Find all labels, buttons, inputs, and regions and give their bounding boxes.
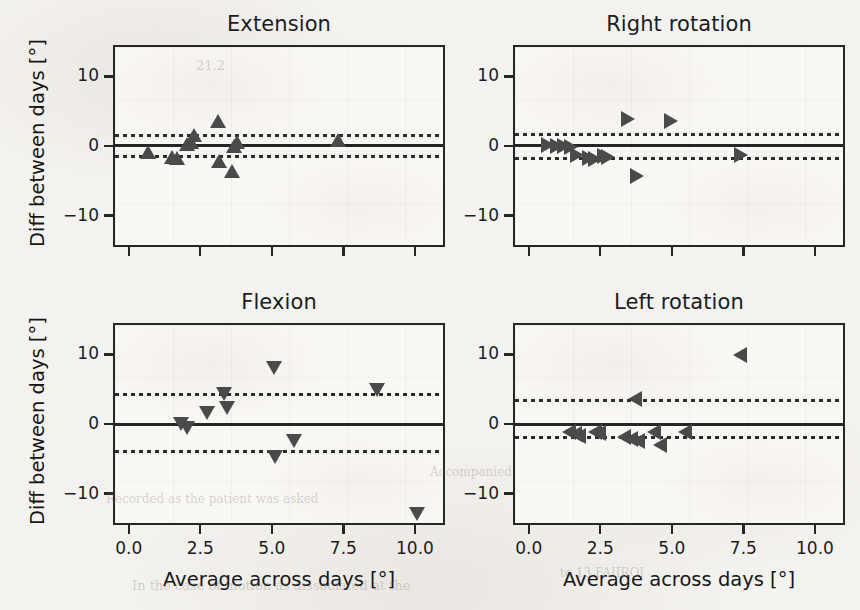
x-axis-title: Average across days [°] bbox=[513, 568, 845, 591]
mean-difference-line bbox=[115, 423, 443, 426]
y-axis-tick bbox=[504, 214, 513, 216]
y-axis-tick-label: 10 bbox=[437, 343, 499, 363]
loa-upper-line bbox=[115, 134, 443, 137]
data-point bbox=[210, 114, 226, 128]
data-point bbox=[572, 428, 586, 444]
data-point bbox=[266, 361, 282, 375]
subplot-title: Right rotation bbox=[513, 12, 845, 36]
y-axis-tick bbox=[104, 75, 113, 77]
x-axis-tick bbox=[742, 525, 744, 534]
data-point bbox=[678, 424, 692, 440]
loa-lower-line bbox=[515, 157, 843, 160]
x-axis-tick-label: 5.0 bbox=[232, 538, 312, 558]
y-axis-tick bbox=[504, 145, 513, 147]
x-axis-tick bbox=[128, 247, 130, 256]
data-point bbox=[631, 433, 645, 449]
x-axis-tick-label: 2.5 bbox=[160, 538, 240, 558]
loa-upper-line bbox=[515, 133, 843, 136]
x-axis-tick-label: 0.0 bbox=[89, 538, 169, 558]
x-axis-tick bbox=[814, 247, 816, 256]
loa-upper-line bbox=[515, 399, 843, 402]
y-axis-tick bbox=[504, 75, 513, 77]
x-axis-tick-label: 0.0 bbox=[489, 538, 569, 558]
x-axis-tick bbox=[414, 525, 416, 534]
x-axis-tick-label: 10.0 bbox=[375, 538, 455, 558]
x-axis-tick bbox=[199, 525, 201, 534]
y-axis-tick-label: 0 bbox=[437, 413, 499, 433]
data-point bbox=[179, 421, 195, 435]
data-point bbox=[630, 168, 644, 184]
x-axis-tick bbox=[199, 247, 201, 256]
data-point bbox=[664, 113, 678, 129]
x-axis-tick-label: 5.0 bbox=[632, 538, 712, 558]
data-point bbox=[409, 507, 425, 521]
x-axis-tick-label: 2.5 bbox=[560, 538, 640, 558]
x-axis-tick bbox=[599, 247, 601, 256]
x-axis-tick bbox=[742, 247, 744, 256]
subplot-title: Left rotation bbox=[513, 290, 845, 314]
y-axis-tick bbox=[504, 492, 513, 494]
x-axis-tick-label: 7.5 bbox=[703, 538, 783, 558]
x-axis-tick bbox=[528, 525, 530, 534]
loa-upper-line bbox=[115, 393, 443, 396]
data-point bbox=[186, 128, 202, 142]
data-point bbox=[628, 391, 642, 407]
figure-page: Extension100−10Diff between days [°]Righ… bbox=[0, 0, 860, 610]
x-axis-title: Average across days [°] bbox=[113, 568, 445, 591]
x-axis-tick-label: 10.0 bbox=[775, 538, 855, 558]
data-point bbox=[199, 406, 215, 420]
y-axis-title: Diff between days [°] bbox=[26, 323, 49, 525]
x-axis-tick bbox=[414, 247, 416, 256]
data-point bbox=[734, 147, 748, 163]
data-point bbox=[369, 383, 385, 397]
y-axis-tick bbox=[104, 492, 113, 494]
data-point bbox=[216, 387, 232, 401]
data-point bbox=[219, 401, 235, 415]
x-axis-tick bbox=[528, 247, 530, 256]
subplot-title: Extension bbox=[113, 12, 445, 36]
data-point bbox=[601, 149, 615, 165]
x-axis-tick bbox=[671, 525, 673, 534]
data-point bbox=[224, 164, 240, 178]
y-axis-tick-label: −10 bbox=[437, 205, 499, 225]
data-point bbox=[267, 450, 283, 464]
y-axis-tick bbox=[104, 145, 113, 147]
data-point bbox=[733, 347, 747, 363]
y-axis-tick bbox=[104, 214, 113, 216]
y-axis-tick bbox=[504, 353, 513, 355]
x-axis-tick bbox=[599, 525, 601, 534]
subplot-title: Flexion bbox=[113, 290, 445, 314]
y-axis-tick-label: 0 bbox=[437, 135, 499, 155]
data-point bbox=[621, 111, 635, 127]
x-axis-tick bbox=[271, 247, 273, 256]
data-point bbox=[140, 145, 156, 159]
y-axis-tick bbox=[104, 423, 113, 425]
y-axis-tick bbox=[104, 353, 113, 355]
x-axis-tick bbox=[271, 525, 273, 534]
data-point bbox=[169, 151, 185, 165]
x-axis-tick bbox=[128, 525, 130, 534]
y-axis-tick-label: 10 bbox=[437, 65, 499, 85]
x-axis-tick bbox=[342, 525, 344, 534]
x-axis-tick-label: 7.5 bbox=[303, 538, 383, 558]
x-axis-tick bbox=[342, 247, 344, 256]
subplot-grid: Extension100−10Diff between days [°]Righ… bbox=[0, 0, 860, 610]
mean-difference-line bbox=[115, 144, 443, 147]
data-point bbox=[653, 437, 667, 453]
data-point bbox=[229, 135, 245, 149]
plot-area-top-right bbox=[513, 45, 845, 247]
plot-area-bottom-right bbox=[513, 323, 845, 525]
x-axis-tick bbox=[814, 525, 816, 534]
y-axis-tick-label: −10 bbox=[437, 483, 499, 503]
y-axis-title: Diff between days [°] bbox=[26, 45, 49, 247]
data-point bbox=[592, 425, 606, 441]
x-axis-tick bbox=[671, 247, 673, 256]
plot-area-bottom-left bbox=[113, 323, 445, 525]
data-point bbox=[330, 133, 346, 147]
data-point bbox=[286, 434, 302, 448]
plot-area-top-left bbox=[113, 45, 445, 247]
y-axis-tick bbox=[504, 423, 513, 425]
